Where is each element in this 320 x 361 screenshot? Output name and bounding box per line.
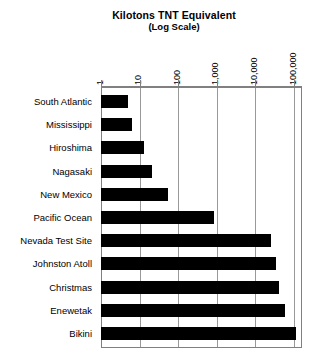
bars-layer <box>0 0 320 361</box>
bar-chart: Kilotons TNT Equivalent (Log Scale) 1101… <box>0 0 320 361</box>
bar <box>101 165 152 178</box>
bar <box>101 327 296 340</box>
bar <box>101 234 271 247</box>
bar <box>101 141 144 154</box>
bar <box>101 95 128 108</box>
bar <box>101 188 168 201</box>
bar <box>101 281 279 294</box>
bar <box>101 304 285 317</box>
bar <box>101 211 214 224</box>
bar <box>101 257 276 270</box>
bar <box>101 118 132 131</box>
